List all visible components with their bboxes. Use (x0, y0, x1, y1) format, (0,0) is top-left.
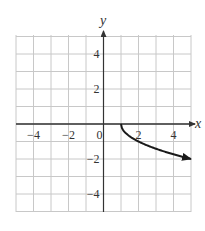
axes (16, 31, 195, 212)
y-tick-label: 4 (94, 47, 100, 61)
y-tick-label: −2 (87, 152, 100, 166)
y-tick-label: 2 (94, 82, 100, 96)
x-tick-label: 4 (171, 128, 177, 142)
function-graph: −4−202442−2−4 x y (0, 0, 205, 231)
x-tick-label: −4 (27, 128, 40, 142)
x-tick-label: 0 (97, 128, 103, 142)
y-tick-label: −4 (87, 187, 100, 201)
x-tick-label: −2 (62, 128, 75, 142)
x-axis-label: x (194, 116, 202, 131)
y-axis-label: y (98, 13, 107, 28)
